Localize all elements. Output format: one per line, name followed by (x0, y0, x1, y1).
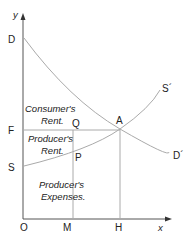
point-H-label: H (115, 222, 122, 233)
diagram-svg: y D F S O M H x A Q P S´ D´ Consumer's R… (0, 0, 195, 243)
point-F-label: F (8, 125, 14, 136)
point-P-label: P (75, 152, 82, 163)
producer-expenses-label-1: Producer's (39, 179, 84, 190)
producer-expenses-label-2: Expenses. (41, 191, 85, 202)
point-A-label: A (116, 115, 123, 126)
supply-demand-diagram: y D F S O M H x A Q P S´ D´ Consumer's R… (0, 0, 195, 243)
point-Q-label: Q (72, 118, 80, 129)
consumer-rent-label-1: Consumer's (25, 103, 76, 114)
producer-rent-label-2: Rent. (41, 145, 64, 156)
x-axis-label: x (157, 222, 164, 233)
y-axis-arrow-icon (21, 13, 26, 20)
y-axis-label: y (12, 9, 19, 20)
origin-label: O (20, 222, 28, 233)
consumer-rent-label-2: Rent. (41, 115, 64, 126)
point-S-label: S (8, 162, 15, 173)
x-axis-arrow-icon (165, 217, 172, 222)
point-D-prime-label: D´ (173, 150, 184, 161)
point-M-label: M (63, 222, 71, 233)
point-S-prime-label: S´ (162, 83, 172, 94)
point-D-label: D (8, 34, 15, 45)
producer-rent-label-1: Producer's (28, 133, 73, 144)
